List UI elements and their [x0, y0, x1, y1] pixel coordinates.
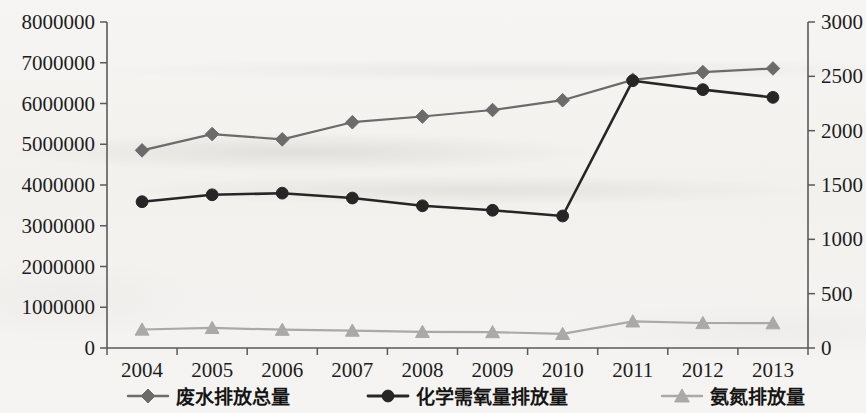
- data-point-diamond-marker: [416, 110, 430, 124]
- right-axis-tick-label: 500: [821, 282, 853, 306]
- right-axis-tick-label: 1500: [821, 173, 863, 197]
- left-axis-tick-label: 4000000: [22, 173, 96, 197]
- legend-label: 废水排放总量: [176, 386, 290, 408]
- right-axis-tick-label: 0: [821, 336, 832, 360]
- data-point-diamond-marker: [346, 115, 360, 129]
- series-line: [142, 81, 773, 216]
- right-axis-tick-label: 1000: [821, 227, 863, 251]
- right-axis-tick-label: 3000: [821, 10, 863, 34]
- right-axis-tick-label: 2500: [821, 64, 863, 88]
- legend-item-2[interactable]: 化学需氧量排放量: [368, 386, 568, 408]
- category-axis-tick-label: 2008: [401, 358, 443, 382]
- data-point-diamond-marker: [766, 62, 780, 76]
- data-point-circle-marker: [136, 196, 148, 208]
- legend-label: 氨氮排放量: [710, 386, 805, 408]
- legend-item-3[interactable]: 氨氮排放量: [662, 386, 805, 408]
- legend-diamond-marker: [141, 389, 155, 403]
- series-line: [142, 69, 773, 151]
- category-axis-tick-label: 2010: [542, 358, 584, 382]
- data-point-diamond-marker: [205, 127, 219, 141]
- legend-label: 化学需氧量排放量: [416, 386, 568, 408]
- left-axis-tick-label: 5000000: [22, 132, 96, 156]
- left-axis-tick-label: 8000000: [22, 10, 96, 34]
- data-point-diamond-marker: [275, 133, 289, 147]
- left-axis-tick-label: 6000000: [22, 92, 96, 116]
- data-point-diamond-marker: [135, 144, 149, 158]
- left-axis-tick-label: 1000000: [22, 295, 96, 319]
- category-axis-tick-label: 2011: [612, 358, 653, 382]
- left-axis-tick-label: 3000000: [22, 214, 96, 238]
- data-point-diamond-marker: [486, 103, 500, 117]
- right-value-axis: 050010001500200025003000: [808, 10, 863, 360]
- category-axis-tick-label: 2009: [472, 358, 514, 382]
- data-point-circle-marker: [557, 210, 569, 222]
- category-axis-tick-label: 2012: [682, 358, 724, 382]
- category-axis-tick-label: 2007: [331, 358, 373, 382]
- data-point-circle-marker: [346, 192, 358, 204]
- data-point-diamond-marker: [556, 93, 570, 107]
- legend-circle-marker: [382, 390, 394, 402]
- left-value-axis: 0100000020000003000000400000050000006000…: [22, 10, 108, 360]
- data-point-diamond-marker: [696, 65, 710, 79]
- series-line: [142, 321, 773, 334]
- line-chart: 0100000020000003000000400000050000006000…: [0, 0, 866, 413]
- chart-canvas: 0100000020000003000000400000050000006000…: [0, 0, 866, 413]
- data-point-circle-marker: [417, 200, 429, 212]
- category-axis-tick-label: 2005: [191, 358, 233, 382]
- category-axis: 2004200520062007200820092010201120122013: [107, 348, 808, 382]
- chart-legend: 废水排放总量化学需氧量排放量氨氮排放量: [128, 386, 805, 408]
- data-point-circle-marker: [627, 75, 639, 87]
- category-axis-tick-label: 2006: [261, 358, 303, 382]
- category-axis-tick-label: 2013: [752, 358, 794, 382]
- series-1: [135, 62, 780, 158]
- plot-area-series: [135, 62, 780, 340]
- category-axis-tick-label: 2004: [121, 358, 164, 382]
- data-point-circle-marker: [276, 187, 288, 199]
- left-axis-tick-label: 0: [85, 336, 96, 360]
- left-axis-tick-label: 7000000: [22, 51, 96, 75]
- data-point-circle-marker: [767, 91, 779, 103]
- legend-item-1[interactable]: 废水排放总量: [128, 386, 290, 408]
- right-axis-tick-label: 2000: [821, 119, 863, 143]
- data-point-circle-marker: [206, 189, 218, 201]
- data-point-circle-marker: [487, 204, 499, 216]
- series-2: [136, 75, 779, 222]
- series-3: [135, 315, 780, 340]
- data-point-circle-marker: [697, 84, 709, 96]
- left-axis-tick-label: 2000000: [22, 255, 96, 279]
